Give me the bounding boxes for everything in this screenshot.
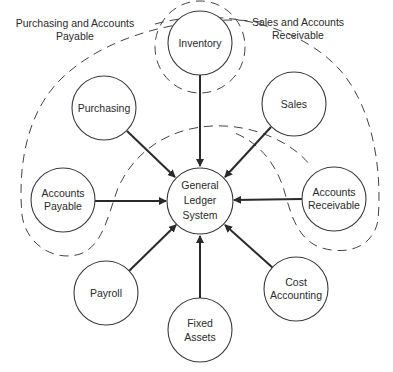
node-label: Assets [184, 331, 216, 343]
node-label: Sales [281, 98, 307, 110]
node-label: Payable [44, 200, 82, 212]
arrow-payroll-to-gl [129, 225, 176, 271]
node-sales: Sales [262, 72, 326, 136]
node-label: Inventory [178, 37, 222, 49]
node-label: Purchasing [78, 102, 131, 114]
node-label: Ledger [184, 194, 217, 206]
node-cost-accounting: Cost Accounting [264, 257, 328, 321]
node-accounts-receivable: Accounts Receivable [302, 167, 366, 231]
node-fixed-assets: Fixed Assets [168, 298, 232, 362]
node-payroll: Payroll [74, 261, 138, 325]
arrow-ar-to-gl [234, 199, 302, 200]
node-label: Accounts [312, 186, 355, 198]
node-accounts-payable: Accounts Payable [31, 168, 95, 232]
node-label: Accounting [270, 289, 322, 301]
node-label: General [181, 179, 218, 191]
node-circle [168, 298, 232, 362]
group-label-sales-ar: Sales and Accounts Receivable [252, 16, 344, 41]
arrow-cost-accounting-to-gl [225, 225, 273, 268]
node-inventory: Inventory [168, 11, 232, 75]
node-purchasing: Purchasing [72, 76, 136, 140]
arrow-purchasing-to-gl [127, 131, 175, 177]
arrow-sales-to-gl [225, 127, 271, 177]
node-label: Accounts [41, 187, 84, 199]
node-general-ledger-system: General Ledger System [167, 168, 233, 234]
node-label: Fixed [187, 317, 213, 329]
node-label: Cost [285, 276, 307, 288]
group-label-line: Payable [56, 30, 94, 42]
node-label: System [182, 209, 217, 221]
node-label: Payroll [90, 287, 122, 299]
general-ledger-diagram: Purchasing and Accounts Payable Sales an… [0, 0, 393, 372]
group-label-line: Purchasing and Accounts [16, 17, 135, 29]
node-label: Receivable [308, 199, 360, 211]
group-label-purchasing-ap: Purchasing and Accounts Payable [16, 17, 135, 42]
